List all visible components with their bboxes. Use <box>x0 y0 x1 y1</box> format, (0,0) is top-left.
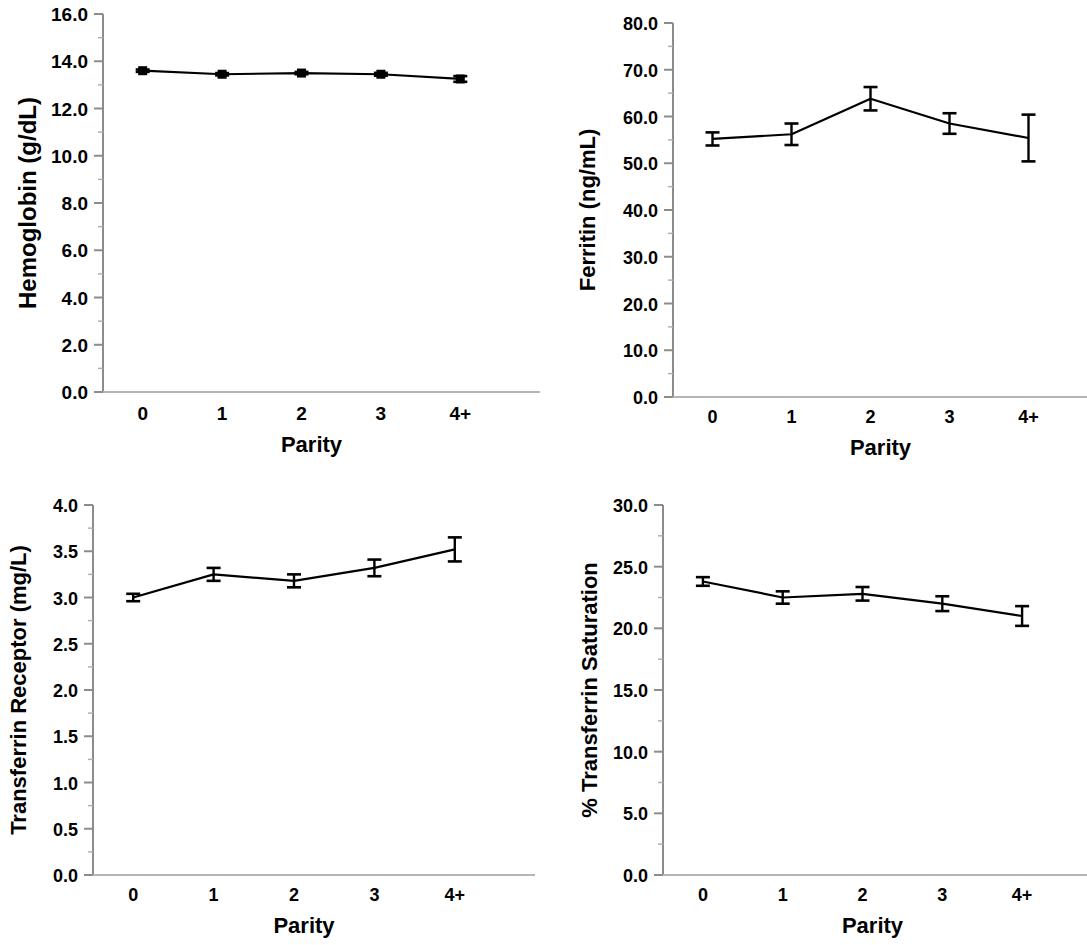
y-tick-label: 3.5 <box>53 542 78 562</box>
figure-panel-grid: 0.02.04.06.08.010.012.014.016.0Hemoglobi… <box>0 0 1087 945</box>
y-tick-label: 10.0 <box>51 146 88 167</box>
chart-panel-transferrin-saturation: 0.05.010.015.020.025.030.0% Transferrin … <box>543 472 1087 945</box>
x-tick-label: 1 <box>209 885 219 905</box>
y-tick-label: 4.0 <box>62 288 88 309</box>
data-point-marker <box>297 69 306 78</box>
x-tick-label: 2 <box>296 403 307 424</box>
y-tick-label: 0.0 <box>633 388 658 408</box>
x-tick-label: 3 <box>937 885 947 905</box>
y-tick-label: 30.0 <box>623 248 658 268</box>
y-tick-label: 5.0 <box>623 804 648 824</box>
y-tick-label: 0.5 <box>53 820 78 840</box>
x-axis-title: Parity <box>850 435 912 460</box>
y-tick-label: 6.0 <box>62 240 88 261</box>
x-tick-label: 2 <box>289 885 299 905</box>
chart-panel-hemoglobin: 0.02.04.06.08.010.012.014.016.0Hemoglobi… <box>0 0 543 472</box>
x-tick-label: 3 <box>944 407 954 427</box>
chart-svg-hemoglobin: 0.02.04.06.08.010.012.014.016.0Hemoglobi… <box>0 0 543 472</box>
chart-svg-ferritin: 0.010.020.030.040.050.060.070.080.0Ferri… <box>543 0 1087 472</box>
y-tick-label: 70.0 <box>623 61 658 81</box>
y-tick-label: 40.0 <box>623 201 658 221</box>
data-point-marker <box>376 70 385 79</box>
x-tick-label: 1 <box>786 407 796 427</box>
y-tick-label: 16.0 <box>51 4 88 25</box>
x-tick-label: 4+ <box>1018 407 1039 427</box>
y-axis-title: Hemoglobin (g/dL) <box>14 97 41 309</box>
x-tick-label: 4+ <box>445 885 466 905</box>
y-tick-label: 25.0 <box>613 558 648 578</box>
data-point-marker <box>138 66 147 75</box>
x-axis-title: Parity <box>842 913 904 938</box>
y-tick-label: 14.0 <box>51 51 88 72</box>
x-tick-label: 4+ <box>1012 885 1033 905</box>
x-tick-label: 0 <box>707 407 717 427</box>
error-bar <box>864 87 878 110</box>
x-tick-label: 2 <box>865 407 875 427</box>
data-point-marker <box>218 70 227 79</box>
chart-panel-ferritin: 0.010.020.030.040.050.060.070.080.0Ferri… <box>543 0 1087 472</box>
y-tick-label: 0.0 <box>62 382 88 403</box>
y-axis-title: % Transferrin Saturation <box>577 562 602 818</box>
y-tick-label: 15.0 <box>613 681 648 701</box>
chart-panel-transferrin-receptor: 0.00.51.01.52.02.53.03.54.0Transferrin R… <box>0 472 543 945</box>
y-tick-label: 2.0 <box>53 681 78 701</box>
y-tick-label: 12.0 <box>51 99 88 120</box>
x-tick-label: 1 <box>778 885 788 905</box>
y-tick-label: 0.0 <box>53 866 78 886</box>
y-tick-label: 2.0 <box>62 335 88 356</box>
y-axis-title: Ferritin (ng/mL) <box>575 129 600 292</box>
y-tick-label: 50.0 <box>623 154 658 174</box>
y-tick-label: 80.0 <box>623 14 658 34</box>
y-tick-label: 0.0 <box>623 866 648 886</box>
y-tick-label: 1.5 <box>53 727 78 747</box>
y-tick-label: 20.0 <box>623 295 658 315</box>
x-tick-label: 0 <box>698 885 708 905</box>
x-tick-label: 3 <box>369 885 379 905</box>
error-bar <box>126 594 140 601</box>
y-tick-label: 30.0 <box>613 496 648 516</box>
y-tick-label: 10.0 <box>623 341 658 361</box>
y-tick-label: 2.5 <box>53 635 78 655</box>
chart-svg-transferrin-saturation: 0.05.010.015.020.025.030.0% Transferrin … <box>543 472 1087 945</box>
y-tick-label: 4.0 <box>53 496 78 516</box>
y-tick-label: 60.0 <box>623 108 658 128</box>
y-tick-label: 20.0 <box>613 619 648 639</box>
x-tick-label: 4+ <box>449 403 471 424</box>
x-tick-label: 0 <box>137 403 148 424</box>
x-tick-label: 2 <box>857 885 867 905</box>
y-tick-label: 8.0 <box>62 193 88 214</box>
x-axis-title: Parity <box>273 913 335 938</box>
y-tick-label: 10.0 <box>613 743 648 763</box>
y-axis-title: Transferrin Receptor (mg/L) <box>6 545 31 835</box>
x-tick-label: 3 <box>376 403 387 424</box>
x-tick-label: 0 <box>128 885 138 905</box>
x-tick-label: 1 <box>217 403 228 424</box>
x-axis-title: Parity <box>281 432 343 457</box>
chart-svg-transferrin-receptor: 0.00.51.01.52.02.53.03.54.0Transferrin R… <box>0 472 543 945</box>
y-tick-label: 1.0 <box>53 774 78 794</box>
y-tick-label: 3.0 <box>53 589 78 609</box>
data-point-marker <box>456 74 465 83</box>
